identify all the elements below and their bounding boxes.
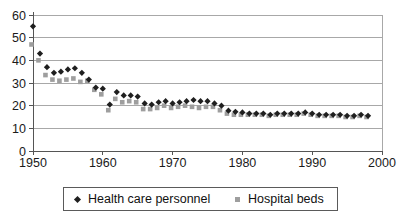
data-point-health-care-personnel [58, 69, 64, 75]
legend-label-hospital-beds: Hospital beds [248, 192, 324, 206]
data-point-hospital-beds [99, 92, 104, 97]
data-point-health-care-personnel [176, 99, 182, 105]
data-point-hospital-beds [141, 107, 146, 112]
data-point-health-care-personnel [190, 97, 196, 103]
data-point-health-care-personnel [121, 92, 127, 98]
data-point-hospital-beds [190, 105, 195, 110]
data-point-health-care-personnel [100, 86, 106, 92]
x-tick-label: 1960 [89, 156, 117, 170]
data-point-hospital-beds [120, 100, 125, 105]
data-point-hospital-beds [57, 78, 62, 83]
data-point-health-care-personnel [156, 99, 162, 105]
data-point-hospital-beds [106, 108, 111, 113]
diamond-marker-icon [74, 195, 81, 202]
x-tick-label: 1950 [19, 156, 47, 170]
data-point-hospital-beds [113, 97, 118, 102]
data-point-health-care-personnel [37, 50, 43, 56]
y-tick-label: 10 [12, 122, 26, 136]
data-point-health-care-personnel [183, 98, 189, 104]
data-point-hospital-beds [29, 42, 34, 47]
data-point-hospital-beds [50, 77, 55, 82]
legend-item-health-care-personnel: Health care personnel [75, 188, 210, 210]
data-point-health-care-personnel [51, 70, 57, 76]
x-tick-label: 1990 [298, 156, 326, 170]
y-tick-label: 60 [12, 9, 26, 23]
data-point-health-care-personnel [128, 92, 134, 98]
x-tick-label: 1970 [159, 156, 187, 170]
legend-item-hospital-beds: Hospital beds [235, 188, 324, 210]
data-point-hospital-beds [134, 100, 139, 105]
data-point-health-care-personnel [79, 70, 85, 76]
data-point-health-care-personnel [163, 98, 169, 104]
data-point-hospital-beds [71, 76, 76, 81]
data-point-health-care-personnel [149, 101, 155, 107]
data-point-health-care-personnel [114, 89, 120, 95]
data-point-hospital-beds [78, 80, 83, 85]
data-point-hospital-beds [204, 105, 209, 110]
data-point-health-care-personnel [65, 66, 71, 72]
data-point-hospital-beds [36, 58, 41, 63]
data-point-health-care-personnel [197, 98, 203, 104]
data-point-hospital-beds [64, 77, 69, 82]
data-point-health-care-personnel [218, 103, 224, 109]
legend-label-health-care-personnel: Health care personnel [88, 192, 210, 206]
y-tick-label: 30 [12, 77, 26, 91]
data-point-health-care-personnel [135, 94, 141, 100]
data-point-health-care-personnel [204, 98, 210, 104]
data-point-health-care-personnel [30, 23, 36, 29]
data-point-health-care-personnel [107, 101, 113, 107]
chart-figure: 0102030405060195019601970198019902000 He… [0, 0, 398, 223]
x-tick-label: 1980 [228, 156, 256, 170]
data-point-hospital-beds [197, 106, 202, 111]
square-marker-icon [235, 197, 240, 202]
data-point-hospital-beds [155, 106, 160, 111]
legend: Health care personnel Hospital beds [63, 187, 338, 211]
x-tick-label: 2000 [368, 156, 396, 170]
data-point-health-care-personnel [44, 64, 50, 70]
data-point-hospital-beds [43, 73, 48, 78]
y-tick-label: 50 [12, 31, 26, 45]
data-point-hospital-beds [127, 99, 132, 104]
y-tick-label: 40 [12, 54, 26, 68]
data-point-health-care-personnel [72, 65, 78, 71]
y-tick-label: 20 [12, 99, 26, 113]
